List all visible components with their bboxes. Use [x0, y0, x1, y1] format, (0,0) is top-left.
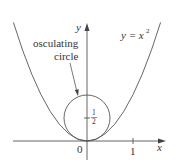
x-tick-label-1: 1: [130, 145, 136, 157]
osculating-circle-diagram: y x 0 1 1 2 y = x 2 osculating circle: [0, 0, 179, 167]
y-tick-numerator: 1: [92, 108, 96, 117]
curve-label-exponent: 2: [146, 27, 150, 35]
y-axis-arrow-icon: [85, 23, 90, 31]
pointer-line: [70, 63, 77, 92]
origin-label: 0: [77, 143, 83, 155]
circle-label-line1: osculating: [33, 37, 79, 49]
x-axis-label: x: [156, 141, 162, 153]
y-tick-denominator: 2: [92, 117, 96, 126]
curve-label: y = x: [120, 29, 144, 41]
circle-label-line2: circle: [54, 50, 79, 62]
y-axis-label: y: [75, 21, 81, 33]
pointer-arrow-icon: [75, 89, 79, 96]
